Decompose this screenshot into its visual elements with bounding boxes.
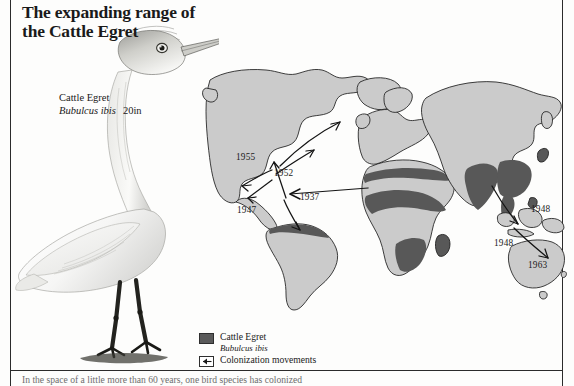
date-label-1947: 1947 xyxy=(237,205,256,215)
date-label-1937: 1937 xyxy=(300,192,319,202)
page-title-line-2: the Cattle Egret xyxy=(22,22,252,41)
body-paragraph: In the space of a little more than 60 ye… xyxy=(22,374,558,386)
landmass-scandinavia xyxy=(384,88,412,113)
legend-range-scientific-name: Bubulcus ibis xyxy=(220,343,268,354)
legend-item-range: Cattle Egret Bubulcus ibis xyxy=(199,331,316,353)
landmass-alaska xyxy=(203,88,218,102)
legend-range-text: Cattle Egret Bubulcus ibis xyxy=(220,331,268,353)
landmass-north-america xyxy=(206,69,369,202)
landmass-sumatra xyxy=(497,213,514,227)
legend-movements-label: Colonization movements xyxy=(220,354,316,366)
date-label-1948-indonesia: 1948 xyxy=(494,238,513,248)
cattle-egret-illustration xyxy=(14,12,219,370)
caption-line-2: Bubulcus ibis20in xyxy=(59,104,142,117)
world-distribution-map xyxy=(200,58,566,310)
landmass-japan xyxy=(537,148,548,162)
landmass-kamchatka xyxy=(541,112,552,129)
legend-item-movements: Colonization movements xyxy=(199,354,316,367)
landmass-new-guinea xyxy=(542,218,564,232)
date-label-1955: 1955 xyxy=(236,152,255,162)
caption-size: 20in xyxy=(123,105,142,116)
species-caption: Cattle Egret Bubulcus ibis20in xyxy=(59,91,142,118)
arrow-box-icon xyxy=(199,356,214,367)
frame-rule-left xyxy=(10,0,11,386)
landmass-new-zealand xyxy=(561,271,566,277)
map-legend: Cattle Egret Bubulcus ibis Colonization … xyxy=(199,331,316,368)
legend-range-label: Cattle Egret xyxy=(220,331,266,342)
frame-rule-bottom xyxy=(10,370,562,371)
landmass-java xyxy=(508,229,534,237)
date-label-1948-philippines: 1948 xyxy=(531,204,550,214)
gray-swatch-icon xyxy=(199,333,214,344)
date-label-1963: 1963 xyxy=(528,260,547,270)
range-southeast-asia xyxy=(497,160,532,198)
landmass-tasmania xyxy=(539,291,547,299)
range-africa-south xyxy=(395,238,426,272)
date-label-1952: 1952 xyxy=(274,168,293,178)
landmass-madagascar xyxy=(435,234,450,256)
caption-common-name: Cattle Egret xyxy=(59,91,142,104)
field-guide-page: 1955 1952 1937 1947 1948 1948 1963 Cattl… xyxy=(0,0,574,386)
caption-scientific-name: Bubulcus ibis xyxy=(59,105,116,116)
page-title-line-1: The expanding range of xyxy=(22,2,195,22)
page-title: The expanding range of the Cattle Egret xyxy=(22,3,252,41)
